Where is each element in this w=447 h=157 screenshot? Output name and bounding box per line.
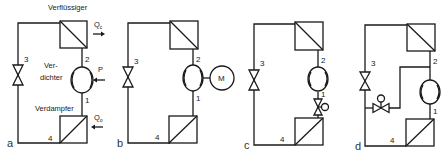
condenser-icon <box>60 21 87 48</box>
evaporator-icon <box>295 118 323 145</box>
compressor-icon <box>183 65 203 91</box>
heat-in-label: Qo <box>94 113 103 123</box>
pipe-valve-to-evaporator <box>128 87 170 143</box>
compressor-label-line2: dichter <box>40 73 63 82</box>
refrigeration-cycle-diagram: Verflüssiger Ver- dichter Verdampfer Qc … <box>0 0 447 157</box>
point-4-label: 4 <box>155 133 160 142</box>
point-2-label: 2 <box>85 55 90 64</box>
panel-b: M 2 1 3 4 b <box>117 21 234 149</box>
expansion-valve-icon <box>360 72 370 90</box>
compressor-icon <box>71 67 93 93</box>
point-1-label: 1 <box>196 94 201 103</box>
heat-out-label: Qc <box>94 20 103 30</box>
suction-throttle-valve-icon <box>314 99 329 115</box>
panel-c: 2 1 3 4 c <box>244 22 329 151</box>
bypass-valve-icon <box>373 95 389 113</box>
point-2-label: 2 <box>321 56 326 65</box>
pipe-valve-to-evaporator <box>254 90 295 145</box>
panel-label-d: d <box>355 140 361 152</box>
point-1-label: 1 <box>85 96 90 105</box>
evaporator-icon <box>406 119 434 146</box>
point-2-label: 2 <box>196 55 201 64</box>
evaporator-label: Verdampfer <box>35 104 74 113</box>
expansion-valve-icon <box>123 67 133 87</box>
point-3-label: 3 <box>371 59 376 68</box>
point-4-label: 4 <box>280 135 285 144</box>
condenser-icon <box>407 24 435 51</box>
compressor-label-line1: Ver- <box>44 61 58 70</box>
heat-out-arrow-icon <box>93 32 105 37</box>
point-4-label: 4 <box>48 134 53 143</box>
panel-label-c: c <box>244 139 250 151</box>
panel-label-a: a <box>7 137 14 149</box>
pipe-valve-to-evaporator <box>18 85 60 143</box>
point-4-label: 4 <box>390 136 395 145</box>
power-label: P <box>98 65 103 74</box>
point-3-label: 3 <box>24 55 29 64</box>
point-3-label: 3 <box>260 59 265 68</box>
expansion-valve-icon <box>249 70 259 90</box>
compressor-icon <box>308 67 328 91</box>
heat-in-arrow-icon <box>91 125 103 130</box>
point-1-label: 1 <box>321 90 326 99</box>
evaporator-icon <box>169 116 197 143</box>
condenser-label: Verflüssiger <box>48 3 88 12</box>
panel-label-b: b <box>117 137 123 149</box>
condenser-icon <box>170 21 198 49</box>
evaporator-icon <box>60 116 87 143</box>
condenser-icon <box>295 22 323 50</box>
point-1-label: 1 <box>433 107 438 116</box>
panel-a: Verflüssiger Ver- dichter Verdampfer Qc … <box>7 3 105 149</box>
compressor-icon <box>420 80 440 104</box>
power-arrow-icon <box>93 78 105 83</box>
point-2-label: 2 <box>433 57 438 66</box>
motor-label: M <box>218 74 225 83</box>
panel-d: 2 1 3 4 d <box>355 24 440 152</box>
expansion-valve-icon <box>13 65 23 85</box>
point-3-label: 3 <box>134 57 139 66</box>
